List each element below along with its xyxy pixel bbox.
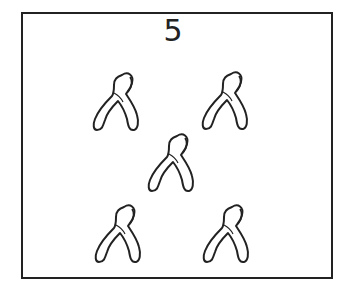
wishbone-icon	[201, 68, 251, 132]
wishbone-icon	[94, 201, 144, 265]
wishbone-icon	[92, 69, 142, 133]
count-number: 5	[0, 16, 346, 46]
wishbone-icon	[202, 201, 252, 265]
wishbone-icon	[147, 130, 197, 194]
